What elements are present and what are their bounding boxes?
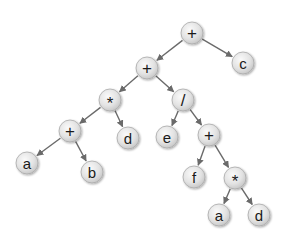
node-label: * [232, 172, 239, 191]
node-label: d [124, 130, 132, 147]
edge-arrow [76, 142, 86, 161]
edge-arrow [224, 189, 230, 204]
operator-node: + [198, 124, 220, 146]
node-label: + [204, 126, 214, 145]
operand-node: a [16, 152, 38, 174]
node-label: * [107, 94, 114, 113]
edge-arrow [190, 110, 201, 125]
node-label: c [239, 55, 247, 72]
node-label: + [142, 59, 152, 78]
edge-arrow [120, 76, 138, 92]
expression-tree-diagram: +c+*/+de+abf*ad [0, 0, 285, 246]
edge-arrow [37, 138, 60, 155]
edge-arrow [242, 188, 253, 204]
operand-node: b [81, 161, 103, 183]
node-label: e [163, 129, 171, 146]
operator-node: * [99, 89, 121, 113]
operand-node: e [156, 126, 178, 148]
operator-node: + [136, 57, 158, 79]
operator-node: + [181, 22, 203, 44]
node-label: d [255, 207, 263, 224]
edge-arrow [80, 107, 101, 123]
operand-node: d [117, 127, 139, 149]
operand-node: d [248, 204, 270, 226]
edge-arrow [157, 40, 183, 60]
operator-node: + [59, 120, 81, 142]
operator-node: / [172, 89, 194, 111]
operand-node: a [208, 204, 230, 226]
node-label: b [88, 164, 96, 181]
edge-arrow [115, 111, 123, 127]
operand-node: f [183, 166, 205, 188]
node-label: a [215, 207, 224, 224]
operand-node: c [232, 52, 254, 74]
node-label: a [23, 155, 32, 172]
node-label: / [181, 91, 186, 110]
operator-node: * [224, 167, 246, 191]
edge-arrow [172, 111, 178, 126]
edge-arrow [202, 39, 232, 57]
edge-arrow [198, 146, 205, 165]
nodes-layer: +c+*/+de+abf*ad [16, 22, 270, 226]
edge-arrow [156, 76, 174, 92]
node-label: + [187, 24, 197, 43]
node-label: + [65, 122, 75, 141]
edge-arrow [215, 145, 228, 167]
